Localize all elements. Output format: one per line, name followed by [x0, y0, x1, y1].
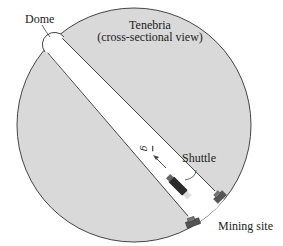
- dome-label: Dome: [25, 13, 54, 26]
- diagram-subtitle: (cross-sectional view): [80, 31, 220, 44]
- mining-site-label: Mining site: [218, 220, 273, 233]
- shuttle-label: Shuttle: [182, 152, 216, 165]
- gravity-vector-label: g: [139, 146, 152, 152]
